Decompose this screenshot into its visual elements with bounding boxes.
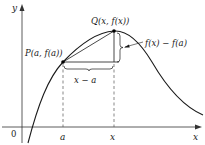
y-axis-arrow-icon xyxy=(20,4,25,11)
point-P xyxy=(61,60,65,64)
vertical-difference-label: f(x) − f(a) xyxy=(144,38,187,48)
tick-label-x: x xyxy=(110,132,115,142)
horizontal-difference-label: x − a xyxy=(74,75,96,85)
point-Q xyxy=(112,29,116,33)
secant-line xyxy=(63,31,114,62)
origin-label: 0 xyxy=(11,129,16,139)
x-axis-arrow-icon xyxy=(195,125,202,130)
x-axis-label: x xyxy=(193,132,198,142)
secant-line-diagram: y x 0 a x P(a, f(a)) Q(x, f(x)) x − a f(… xyxy=(0,0,205,145)
annotation-arrow-icon xyxy=(124,45,130,48)
point-Q-label: Q(x, f(x)) xyxy=(91,16,129,26)
tick-label-a: a xyxy=(60,132,65,142)
point-P-label: P(a, f(a)) xyxy=(24,48,63,58)
brace-horizontal xyxy=(64,66,113,71)
brace-vertical xyxy=(117,33,123,62)
y-axis xyxy=(20,4,25,143)
y-axis-label: y xyxy=(11,3,18,13)
